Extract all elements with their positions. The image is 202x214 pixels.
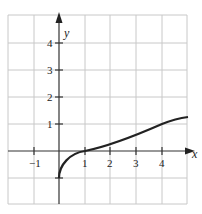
x-tick-2: 2	[107, 157, 113, 169]
x-tick-minus1: −1	[29, 157, 41, 169]
chart: y x 4 3 2 1 −1 1 2 3 4	[0, 0, 202, 214]
y-tick-2: 2	[47, 91, 53, 103]
x-tick-1: 1	[82, 157, 88, 169]
y-tick-3: 3	[47, 64, 53, 76]
axes	[8, 18, 190, 204]
y-tick-4: 4	[47, 37, 53, 49]
grid	[8, 15, 187, 204]
y-tick-1: 1	[47, 118, 53, 130]
x-tick-3: 3	[133, 157, 139, 169]
y-axis-arrow-icon	[56, 12, 63, 23]
x-axis-label: x	[191, 147, 198, 161]
y-axis-label: y	[63, 26, 70, 40]
curve	[59, 117, 188, 178]
x-tick-4: 4	[159, 157, 165, 169]
